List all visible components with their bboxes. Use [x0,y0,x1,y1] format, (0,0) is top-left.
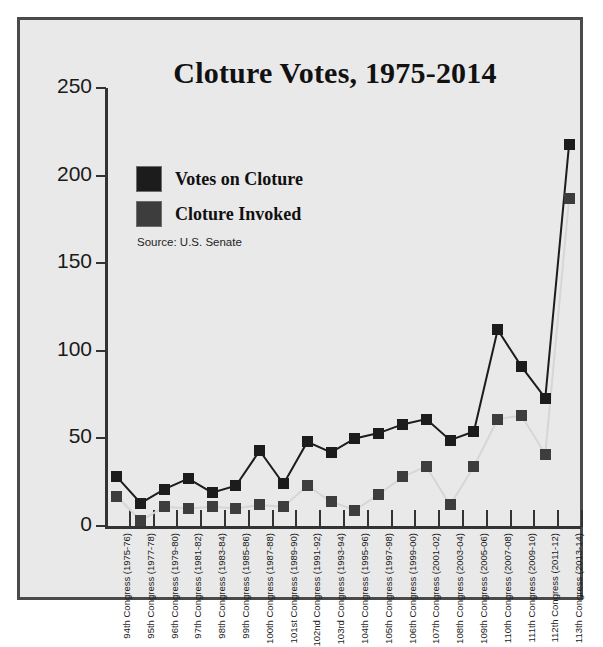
data-point-marker [254,445,265,456]
data-point-marker [373,428,384,439]
x-axis-tick-label: 110th Congress (2007-08) [502,533,513,643]
x-axis-tick-label: 112th Congress (2011-12) [549,533,560,643]
x-axis-tick-label: 99th Congress (1985-86) [240,533,251,639]
data-point-marker [183,503,194,514]
data-point-marker [326,447,337,458]
data-point-marker [111,491,122,502]
x-axis-tick-label: 111th Congress (2009-10) [526,533,537,643]
data-point-marker [445,435,456,446]
data-point-marker [397,419,408,430]
data-point-marker [302,436,313,447]
data-point-marker [183,473,194,484]
data-point-marker [302,480,313,491]
legend-swatch-cloture-invoked [136,201,162,227]
x-axis-tick-label: 101st Congress (1989-90) [288,533,299,643]
data-point-marker [468,461,479,472]
x-axis-tick-label: 103rd Congress (1993-94) [335,533,346,644]
data-point-marker [207,487,218,498]
data-point-marker [230,503,241,514]
x-axis-tick-label: 100th Congress (1987-88) [264,533,275,644]
x-axis-tick-label: 104th Congress (1995-96) [359,533,370,644]
data-point-marker [207,501,218,512]
legend-item-votes-on-cloture: Votes on Cloture [136,166,303,192]
data-point-marker [492,414,503,425]
x-axis-tick-label: 95th Congress (1977-78) [145,533,156,639]
data-point-marker [468,426,479,437]
legend-swatch-votes-on-cloture [136,166,162,192]
data-point-marker [254,499,265,510]
data-point-marker [278,501,289,512]
source-note: Source: U.S. Senate [137,236,303,248]
data-point-marker [397,471,408,482]
legend-label-cloture-invoked: Cloture Invoked [175,204,301,225]
x-axis-tick-label: 107th Congress (2001-02) [430,533,441,644]
data-point-marker [564,193,575,204]
data-point-marker [421,414,432,425]
data-point-marker [326,496,337,507]
data-point-marker [349,433,360,444]
x-axis-tick-label: 96th Congress (1979-80) [169,533,180,639]
x-axis-tick-label: 105th Congress (1997-98) [383,533,394,644]
x-axis-tick-label: 98th Congress (1983-84) [216,533,227,639]
data-point-marker [135,515,146,526]
data-point-marker [492,324,503,335]
data-point-marker [445,499,456,510]
chart-legend: Votes on Cloture Cloture Invoked Source:… [136,166,303,248]
data-point-marker [159,484,170,495]
x-axis-tick-label: 97th Congress (1981-82) [192,533,203,639]
data-point-marker [421,461,432,472]
data-point-marker [564,139,575,150]
x-axis-tick-label: 113th Congress (2013-14) [573,533,584,643]
data-point-marker [540,393,551,404]
x-axis-tick-label: 102nd Congress (1991-92) [311,533,322,647]
data-point-marker [516,410,527,421]
data-point-marker [540,449,551,460]
data-point-marker [516,361,527,372]
legend-label-votes-on-cloture: Votes on Cloture [175,169,303,190]
data-point-marker [135,498,146,509]
data-point-marker [278,478,289,489]
x-axis-tick-label: 108th Congress (2003-04) [454,533,465,644]
data-point-marker [230,480,241,491]
x-axis-tick-label: 106th Congress (1999-00) [407,533,418,644]
x-axis-tick-label: 94th Congress (1975-76) [121,533,132,639]
data-point-marker [373,489,384,500]
data-point-marker [111,471,122,482]
x-axis-tick-label: 109th Congress (2005-06) [478,533,489,644]
chart-figure: Cloture Votes, 1975-2014 250200150100500… [17,17,583,600]
data-point-marker [349,505,360,516]
data-point-marker [159,501,170,512]
legend-item-cloture-invoked: Cloture Invoked [136,201,303,227]
series-lines [20,20,586,603]
